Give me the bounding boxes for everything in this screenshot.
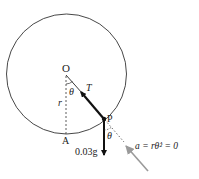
angle-arc-top [66, 82, 73, 85]
label-r: r [58, 98, 62, 108]
circle-motion-diagram [0, 0, 199, 179]
label-p: P [107, 114, 113, 124]
particle-dot [102, 117, 106, 121]
label-theta-bottom: θ [107, 131, 112, 141]
label-theta-top: θ [69, 87, 74, 97]
label-a: A [62, 136, 69, 146]
tension-arrow [81, 92, 104, 119]
label-o: O [62, 63, 70, 74]
label-acceleration: a = rθ̇² = 0 [135, 142, 178, 152]
label-weight: 0.03g [75, 147, 98, 157]
label-tension: T [86, 83, 92, 93]
